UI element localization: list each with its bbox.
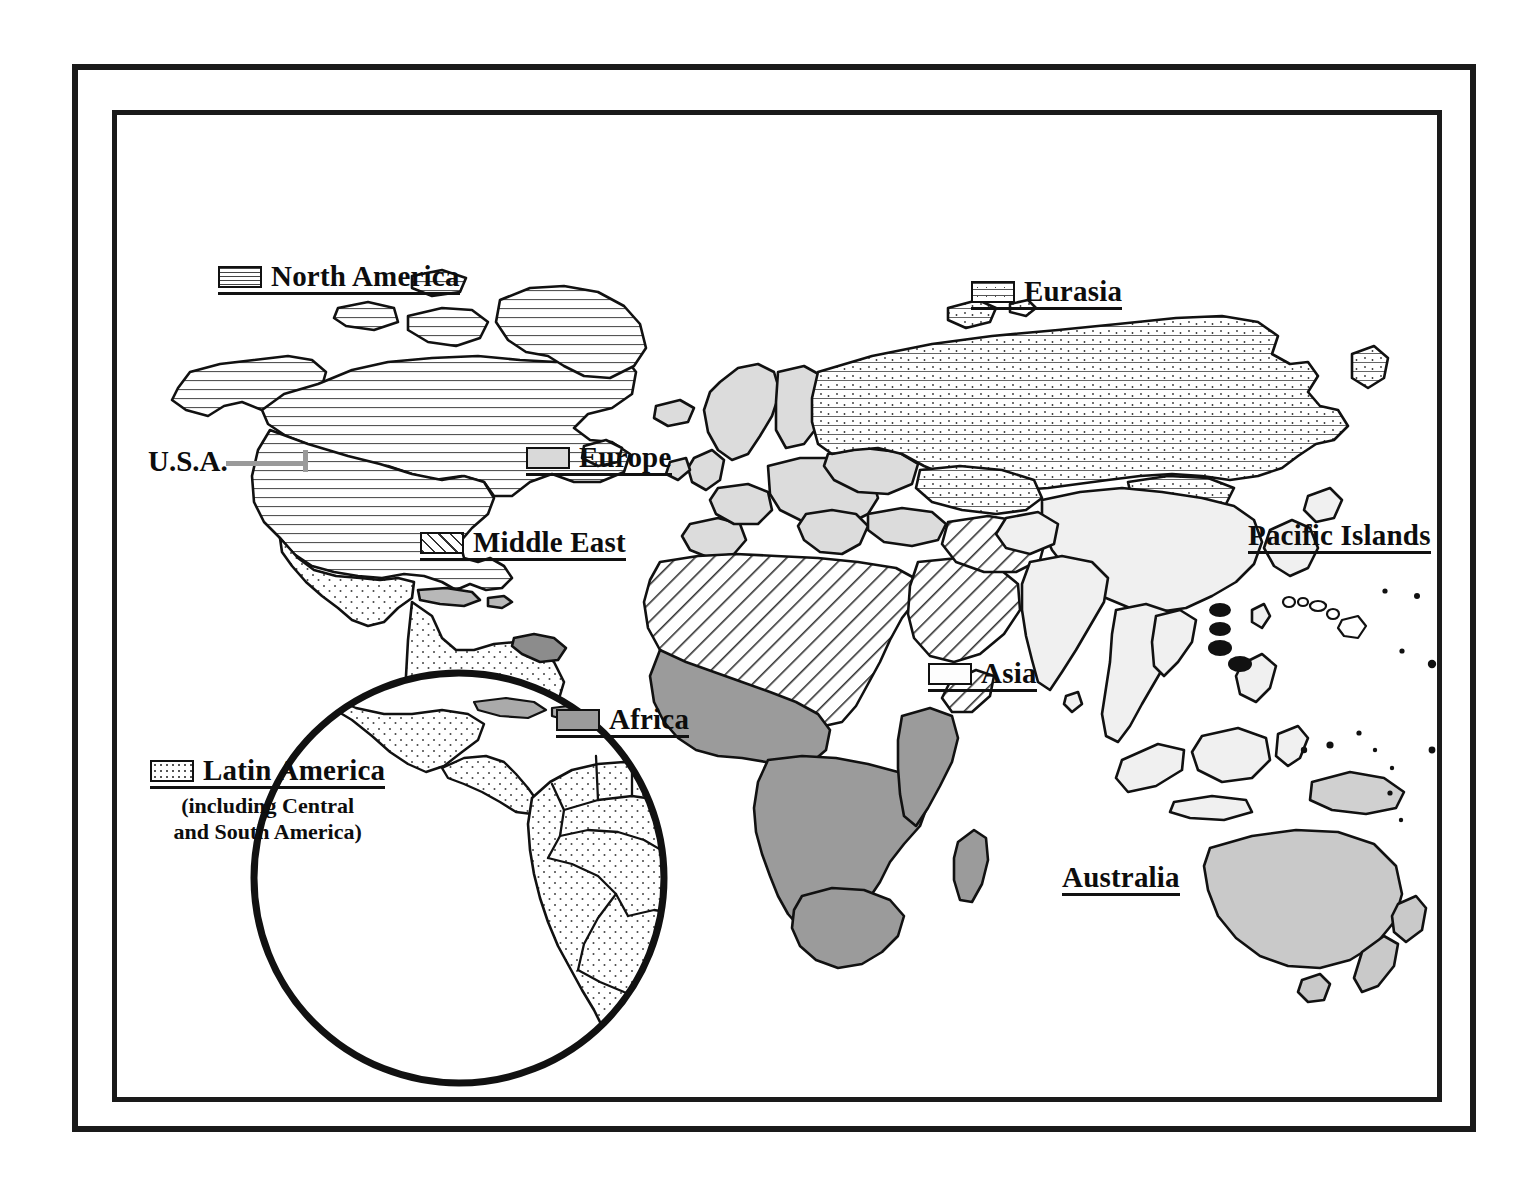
region-sulawesi bbox=[1276, 726, 1308, 766]
swatch-eurasia bbox=[971, 281, 1015, 303]
legend-label-pacific-islands: Pacific Islands bbox=[1248, 521, 1431, 550]
world-map-artwork bbox=[112, 110, 1442, 1102]
region-britain bbox=[688, 450, 724, 490]
region-balkans-italy bbox=[798, 510, 868, 554]
legend-sublabel-line2: and South America) bbox=[173, 819, 361, 845]
legend-africa[interactable]: Africa bbox=[556, 705, 689, 738]
region-baffin bbox=[408, 308, 488, 346]
callout-usa-leader-tick bbox=[303, 450, 308, 472]
legend-label-europe: Europe bbox=[579, 443, 672, 472]
legend-pacific-islands[interactable]: Pacific Islands bbox=[1248, 521, 1431, 554]
legend-sublabel-latin-america: (including Central and South America) bbox=[173, 793, 361, 845]
legend-label-australia: Australia bbox=[1062, 863, 1180, 892]
legend-label-africa: Africa bbox=[609, 705, 689, 734]
legend-label-middle-east: Middle East bbox=[473, 528, 626, 557]
callout-usa-leader-line bbox=[226, 461, 308, 466]
region-iceland bbox=[654, 400, 694, 426]
swatch-middle-east bbox=[420, 532, 464, 554]
region-turkey-caucasus bbox=[868, 508, 946, 546]
region-arctic-isles-a bbox=[334, 302, 398, 330]
legend-north-america[interactable]: North America bbox=[218, 262, 460, 295]
legend-sublabel-line1: (including Central bbox=[173, 793, 361, 819]
region-east-africa bbox=[898, 708, 958, 826]
map-figure: North America Eurasia Europe Middle East… bbox=[0, 0, 1527, 1185]
region-java bbox=[1170, 796, 1252, 820]
region-hispaniola bbox=[488, 596, 512, 608]
hawaii-chain bbox=[1283, 597, 1366, 638]
legend-europe[interactable]: Europe bbox=[526, 443, 672, 476]
swatch-north-america bbox=[218, 266, 262, 288]
swatch-asia bbox=[928, 663, 972, 685]
region-taiwan bbox=[1252, 604, 1270, 628]
region-japan-north bbox=[1304, 488, 1342, 522]
region-southern-africa bbox=[792, 888, 904, 968]
legend-label-eurasia: Eurasia bbox=[1024, 277, 1122, 306]
swatch-africa bbox=[556, 709, 600, 731]
region-sumatra bbox=[1116, 744, 1184, 792]
region-middle-asia bbox=[996, 512, 1058, 554]
region-scandinavia bbox=[704, 364, 780, 460]
legend-label-asia: Asia bbox=[981, 659, 1037, 688]
region-madagascar bbox=[954, 830, 988, 902]
region-srilanka bbox=[1064, 692, 1082, 712]
legend-australia[interactable]: Australia bbox=[1062, 863, 1180, 896]
region-indochina-2 bbox=[1152, 610, 1196, 676]
legend-label-latin-america: Latin America bbox=[203, 756, 385, 785]
region-kamchatka bbox=[1352, 346, 1388, 388]
swatch-europe bbox=[526, 447, 570, 469]
callout-usa-label[interactable]: U.S.A. bbox=[148, 445, 228, 478]
legend-latin-america[interactable]: Latin America (including Central and Sou… bbox=[150, 756, 385, 845]
pacific-dot-cluster bbox=[1208, 603, 1252, 672]
swatch-latin-america bbox=[150, 760, 194, 782]
region-cuba bbox=[418, 588, 480, 606]
region-borneo bbox=[1192, 728, 1270, 782]
legend-middle-east[interactable]: Middle East bbox=[420, 528, 626, 561]
legend-asia[interactable]: Asia bbox=[928, 659, 1037, 692]
legend-label-north-america: North America bbox=[271, 262, 460, 291]
region-arabia bbox=[908, 558, 1020, 662]
region-tasmania bbox=[1298, 974, 1330, 1002]
legend-eurasia[interactable]: Eurasia bbox=[971, 277, 1122, 310]
